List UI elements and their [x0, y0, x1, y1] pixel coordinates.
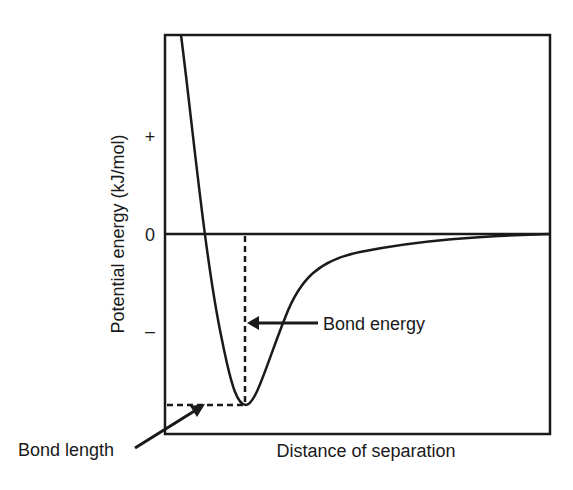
bond-length-label: Bond length [18, 440, 114, 460]
bond-energy-arrow-icon [247, 316, 318, 330]
potential-energy-chart: + 0 – Potential energy (kJ/mol) Distance… [0, 0, 573, 490]
y-axis-label: Potential energy (kJ/mol) [108, 134, 128, 333]
y-tick-minus: – [145, 321, 155, 341]
potential-energy-curve [181, 35, 550, 405]
y-tick-plus: + [145, 127, 156, 147]
bond-energy-label: Bond energy [323, 314, 425, 334]
y-tick-zero: 0 [145, 225, 155, 245]
x-axis-label: Distance of separation [276, 441, 455, 461]
bond-length-arrow-icon [135, 404, 205, 448]
